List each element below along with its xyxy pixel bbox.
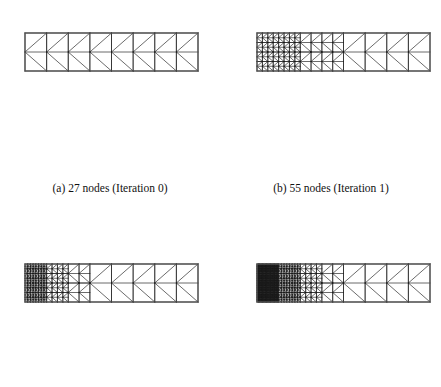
mesh-edge-path [25,264,198,302]
mesh-edge-path [257,264,430,302]
mesh-svg-b [254,30,433,74]
mesh-edges [257,264,430,302]
mesh-edge-path [25,33,198,71]
mesh-panel-b [254,30,433,74]
figure-root: (a) 27 nodes (Iteration 0) (b) 55 nodes … [0,0,441,387]
mesh-svg-d [254,261,433,305]
caption-b: (b) 55 nodes (Iteration 1) [221,181,441,195]
mesh-svg-a [22,30,201,74]
mesh-edges [25,264,198,302]
mesh-panel-c [22,261,201,305]
mesh-edges [257,33,430,71]
mesh-panel-a [22,30,201,74]
caption-a: (a) 27 nodes (Iteration 0) [0,181,220,195]
mesh-svg-c [22,261,201,305]
mesh-panel-d [254,261,433,305]
mesh-edge-path [257,33,430,71]
mesh-edges [25,33,198,71]
